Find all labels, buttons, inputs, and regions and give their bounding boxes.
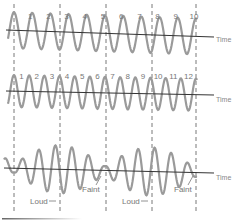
loud-label-1: Loud bbox=[30, 197, 48, 206]
cycle-label-3: 3 bbox=[50, 72, 55, 81]
wave-a-time-label: Time bbox=[216, 36, 231, 43]
cycle-label-4: 4 bbox=[83, 12, 88, 21]
sound-beats-diagram: Time 12345678910 Time 123456789101112 Ti… bbox=[0, 0, 238, 220]
cycle-label-8: 8 bbox=[155, 12, 160, 21]
cycle-label-2: 2 bbox=[35, 72, 40, 81]
wave-b-group: Time 123456789101112 bbox=[6, 72, 231, 111]
wave-b-time-label: Time bbox=[216, 96, 231, 103]
cycle-label-9: 9 bbox=[141, 72, 146, 81]
cycle-label-11: 11 bbox=[169, 72, 178, 81]
cycle-label-2: 2 bbox=[46, 12, 51, 21]
cycle-label-4: 4 bbox=[65, 72, 70, 81]
cycle-label-12: 12 bbox=[184, 72, 193, 81]
bottom-rule bbox=[2, 218, 82, 220]
cycle-label-1: 1 bbox=[19, 72, 24, 81]
cycle-label-1: 1 bbox=[28, 12, 33, 21]
cycle-label-6: 6 bbox=[119, 12, 124, 21]
faint-pointer-2 bbox=[188, 176, 193, 185]
cycle-label-10: 10 bbox=[190, 12, 199, 21]
cycle-label-5: 5 bbox=[101, 12, 106, 21]
cycle-label-7: 7 bbox=[110, 72, 115, 81]
cycle-label-9: 9 bbox=[174, 12, 179, 21]
cycle-label-10: 10 bbox=[154, 72, 163, 81]
faint-label-1: Faint bbox=[82, 185, 101, 194]
cycle-label-7: 7 bbox=[137, 12, 142, 21]
loud-label-2: Loud bbox=[122, 197, 140, 206]
wave-a-group: Time 12345678910 bbox=[6, 12, 231, 54]
cycle-label-3: 3 bbox=[64, 12, 69, 21]
beat-wave-group: Time Loud Faint Loud Faint bbox=[4, 145, 231, 206]
faint-label-2: Faint bbox=[174, 185, 193, 194]
beat-wave-time-label: Time bbox=[216, 174, 231, 181]
cycle-label-8: 8 bbox=[126, 72, 131, 81]
cycle-label-6: 6 bbox=[95, 72, 100, 81]
cycle-label-5: 5 bbox=[80, 72, 85, 81]
